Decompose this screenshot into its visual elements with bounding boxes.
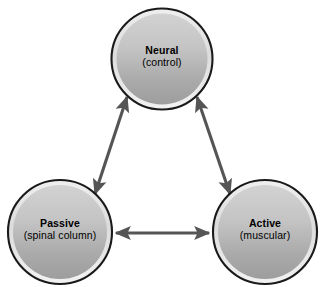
- diagram-canvas: Neural (control) Passive (spinal column)…: [0, 0, 325, 287]
- node-neural[interactable]: [112, 9, 213, 110]
- connector-passive-neural: [95, 97, 127, 194]
- connector-neural-active: [197, 97, 230, 194]
- connector-group: [95, 97, 230, 233]
- node-passive[interactable]: [8, 180, 112, 284]
- node-active[interactable]: [213, 180, 317, 284]
- diagram-graphics: [0, 0, 325, 287]
